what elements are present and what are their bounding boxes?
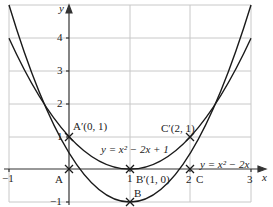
point-label-A-prime: A′(0, 1) <box>73 121 107 132</box>
curve-label-x2-2x: y = x² − 2x <box>200 159 249 170</box>
x-tick-neg1: −1 <box>2 173 14 184</box>
point-label-A: A <box>55 174 63 185</box>
x-tick-2: 2 <box>186 174 192 185</box>
y-tick-3: 3 <box>57 65 63 76</box>
y-tick-1: 1 <box>57 131 63 142</box>
point-label-B: B <box>134 188 141 199</box>
x-tick-3: 3 <box>247 174 253 185</box>
y-tick-2: 2 <box>57 98 63 109</box>
point-label-C-prime: C′(2, 1) <box>161 123 195 134</box>
y-axis-label: y <box>59 3 64 14</box>
x-axis-label: x <box>262 172 267 183</box>
point-label-B-prime: B′(1, 0) <box>136 174 170 185</box>
y-tick-neg1: −1 <box>50 196 62 207</box>
point-label-C: C <box>196 174 203 185</box>
curve-label-x2-2x-plus-1: y = x² − 2x + 1 <box>101 144 169 155</box>
axes <box>4 5 266 205</box>
y-tick-4: 4 <box>57 32 63 43</box>
x-tick-1: 1 <box>127 173 133 184</box>
